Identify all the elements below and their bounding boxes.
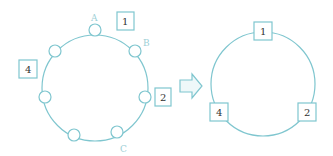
box-4-right-label: 4 (216, 107, 222, 118)
node-c (111, 126, 123, 138)
label-b: B (143, 38, 150, 48)
left-ring: A B C 1 4 2 (19, 12, 171, 154)
node-bottom-left (68, 129, 80, 141)
diagram-canvas: A B C 1 4 2 1 4 2 (0, 0, 333, 156)
box-4-left-label: 4 (25, 64, 31, 75)
node-b (129, 45, 141, 57)
box-2-left-label: 2 (160, 92, 166, 103)
node-a (89, 24, 101, 36)
node-left (39, 91, 51, 103)
arrow-right-icon (180, 74, 202, 98)
box-1-right-label: 1 (260, 26, 266, 37)
box-1-left-label: 1 (122, 16, 128, 27)
right-ring: 1 4 2 (210, 22, 316, 136)
node-upper-left (49, 45, 61, 57)
label-a: A (90, 13, 98, 23)
label-c: C (120, 144, 127, 154)
node-right (139, 91, 151, 103)
box-2-right-label: 2 (304, 107, 310, 118)
